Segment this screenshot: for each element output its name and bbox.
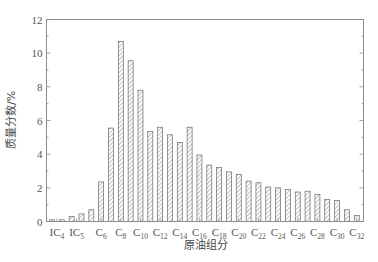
x-axis-title: 原油组分: [184, 238, 228, 252]
bar-C20: [236, 174, 241, 221]
bar-C16: [197, 155, 202, 221]
x-tick-label: C26: [290, 226, 305, 241]
bar-C31: [344, 210, 349, 222]
y-tick-label: 6: [37, 115, 43, 127]
bar-C29: [325, 200, 330, 222]
bar-C25: [285, 190, 290, 222]
plot-frame: [47, 20, 364, 222]
y-tick-label: 10: [32, 47, 44, 59]
bar-C13: [167, 135, 172, 222]
bar-C28: [315, 195, 320, 222]
y-tick-label: 2: [37, 182, 43, 194]
bar-IC5: [69, 216, 74, 221]
bar-chart: 024681012 IC4IC5C6C8C10C12C14C16C18C20C2…: [0, 0, 378, 262]
bar-C11: [148, 131, 153, 221]
x-tick-label: C28: [310, 226, 325, 241]
bar-C26: [295, 192, 300, 221]
bar-C27: [305, 191, 310, 221]
bar-C22: [256, 183, 261, 222]
bars-group: [50, 41, 360, 221]
bar-C10: [138, 90, 143, 221]
bar-nC5: [79, 214, 84, 222]
x-tick-label: C6: [96, 226, 107, 241]
bar-C6: [99, 182, 104, 222]
x-tick-label: C8: [115, 226, 126, 241]
bar-C14: [177, 142, 182, 221]
y-tick-label: 4: [37, 148, 43, 160]
bar-C15: [187, 127, 192, 221]
bar-C5+: [89, 210, 94, 222]
x-tick-label: C24: [271, 226, 286, 241]
x-tick-label: C22: [251, 226, 266, 241]
y-axis-title: 质量分数/%: [5, 91, 18, 149]
x-tick-label: C20: [231, 226, 246, 241]
x-tick-label: C30: [330, 226, 345, 241]
bar-C19: [226, 172, 231, 222]
x-tick-label: IC4: [50, 226, 65, 241]
y-tick-label: 12: [32, 14, 43, 26]
bar-C23: [266, 187, 271, 222]
bar-C24: [276, 188, 281, 222]
bar-C21: [246, 181, 251, 221]
x-tick-label: C10: [133, 226, 148, 241]
bar-C30: [335, 200, 340, 221]
bar-C12: [158, 127, 163, 221]
y-tick-label: 0: [37, 216, 43, 228]
y-tick-label: 8: [37, 81, 43, 93]
x-tick-label: C32: [349, 226, 364, 241]
bar-C7: [108, 128, 113, 221]
bar-C17: [207, 165, 212, 221]
bar-C18: [217, 168, 222, 222]
bar-C8: [118, 41, 123, 221]
x-tick-label: IC5: [69, 226, 84, 241]
bar-C9: [128, 61, 133, 222]
x-tick-label: C12: [153, 226, 168, 241]
